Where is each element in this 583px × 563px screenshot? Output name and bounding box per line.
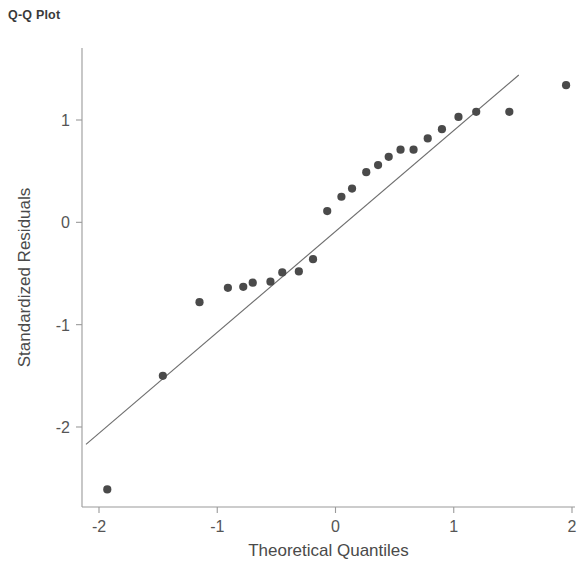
data-point [472, 108, 480, 116]
data-point [348, 184, 356, 192]
y-tick-label: -1 [56, 317, 70, 334]
data-point [505, 108, 513, 116]
data-point [396, 146, 404, 154]
x-tick-label: 0 [331, 518, 340, 535]
x-tick-label: -2 [92, 518, 106, 535]
data-point [409, 146, 417, 154]
data-point [424, 134, 432, 142]
x-tick-label: 1 [449, 518, 458, 535]
data-point [337, 193, 345, 201]
data-point [278, 268, 286, 276]
data-point [103, 485, 111, 493]
y-tick-label: 0 [61, 214, 70, 231]
data-point [249, 279, 257, 287]
x-tick-label: -1 [210, 518, 224, 535]
data-point [195, 298, 203, 306]
axis-labels: -2-101210-1-2Theoretical QuantilesStanda… [15, 112, 577, 560]
x-tick-label: 2 [568, 518, 577, 535]
data-point [362, 168, 370, 176]
qq-reference-line [86, 75, 519, 444]
x-axis-title: Theoretical Quantiles [248, 541, 409, 560]
qq-plot-canvas: -2-101210-1-2Theoretical QuantilesStanda… [0, 0, 583, 563]
data-point [266, 278, 274, 286]
data-point [562, 81, 570, 89]
data-point [385, 153, 393, 161]
data-point [159, 372, 167, 380]
axes [76, 48, 575, 513]
qq-plot-figure: Q-Q Plot -2-101210-1-2Theoretical Quanti… [0, 0, 583, 563]
data-point [438, 125, 446, 133]
y-tick-label: -2 [56, 419, 70, 436]
data-point [239, 283, 247, 291]
y-axis-title: Standardized Residuals [15, 188, 34, 368]
data-point [295, 267, 303, 275]
data-point [224, 284, 232, 292]
data-point [309, 255, 317, 263]
data-point [374, 161, 382, 169]
reference-line [86, 75, 519, 444]
data-point [454, 113, 462, 121]
scatter-points [103, 81, 570, 493]
data-point [323, 207, 331, 215]
y-tick-label: 1 [61, 112, 70, 129]
